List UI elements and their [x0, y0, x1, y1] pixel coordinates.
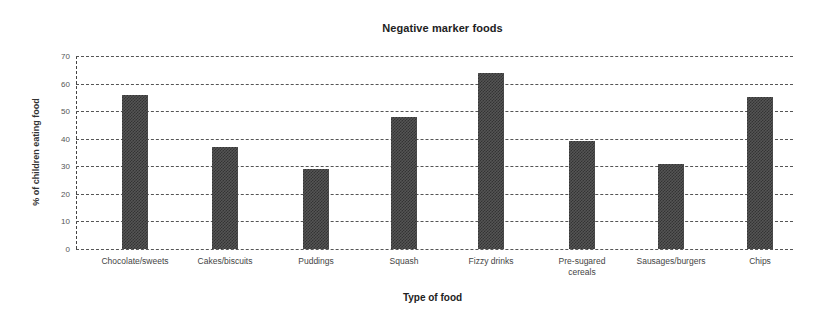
bar	[122, 95, 148, 249]
x-axis-label: Type of food	[0, 292, 835, 303]
bar	[569, 141, 595, 249]
y-tick-label: 40	[52, 134, 70, 143]
chart-title: Negative marker foods	[0, 22, 835, 34]
gridline	[76, 249, 793, 250]
bar	[478, 73, 504, 249]
gridline	[76, 84, 793, 85]
y-tick-label: 50	[52, 107, 70, 116]
y-tick-label: 10	[52, 217, 70, 226]
x-tick-label: Pre-sugared cereals	[552, 256, 612, 278]
gridline	[76, 111, 793, 112]
bar	[658, 164, 684, 249]
plot-area	[76, 56, 793, 249]
x-tick-label: Fizzy drinks	[436, 256, 546, 267]
bar	[391, 117, 417, 249]
bar	[747, 97, 773, 249]
y-tick-label: 70	[52, 52, 70, 61]
bar	[303, 169, 329, 249]
y-tick-label: 0	[52, 245, 70, 254]
y-axis-label: % of children eating food	[31, 98, 41, 206]
gridline	[76, 166, 793, 167]
x-tick-label: Chips	[705, 256, 815, 267]
y-axis-line	[76, 56, 77, 249]
y-tick-label: 20	[52, 189, 70, 198]
gridline	[76, 56, 793, 57]
y-tick-label: 60	[52, 79, 70, 88]
bar	[212, 147, 238, 249]
y-tick-label: 30	[52, 162, 70, 171]
gridline	[76, 194, 793, 195]
gridline	[76, 139, 793, 140]
gridline	[76, 221, 793, 222]
